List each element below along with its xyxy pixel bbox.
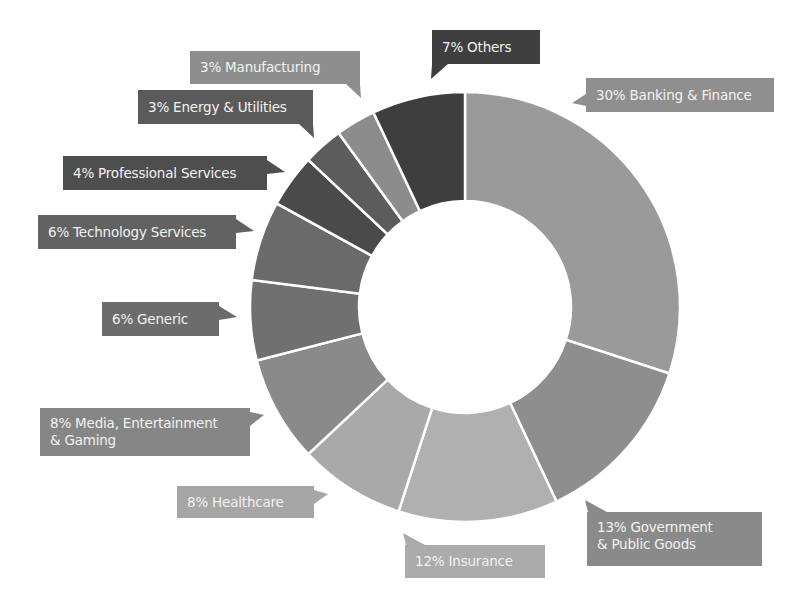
label-healthcare: 8% Healthcare [177,486,314,518]
label-technology-services: 6% Technology Services [38,215,236,249]
callout-tail [236,219,254,233]
callout-tail [219,306,237,320]
callout-tail [585,500,607,512]
donut-slices [250,92,680,522]
callout-tail [403,533,425,545]
label-manufacturing: 3% Manufacturing [190,51,360,84]
label-others: 7% Others [432,30,540,64]
label-government-public-goods: 13% Government & Public Goods [587,512,762,566]
label-insurance: 12% Insurance [405,545,545,578]
callout-tail [314,490,328,504]
label-energy-utilities: 3% Energy & Utilities [138,90,313,124]
callout-tail [431,64,448,79]
callout-tail [572,94,586,106]
callout-tail [299,124,314,138]
label-media-entertainment-gaming: 8% Media, Entertainment & Gaming [40,408,250,456]
callout-tail [250,412,264,426]
label-generic: 6% Generic [102,302,219,336]
label-banking-finance: 30% Banking & Finance [586,78,774,112]
callout-tail [346,84,361,98]
slice-banking-finance [465,92,680,373]
callout-tail [267,160,285,174]
label-professional-services: 4% Professional Services [63,156,267,190]
